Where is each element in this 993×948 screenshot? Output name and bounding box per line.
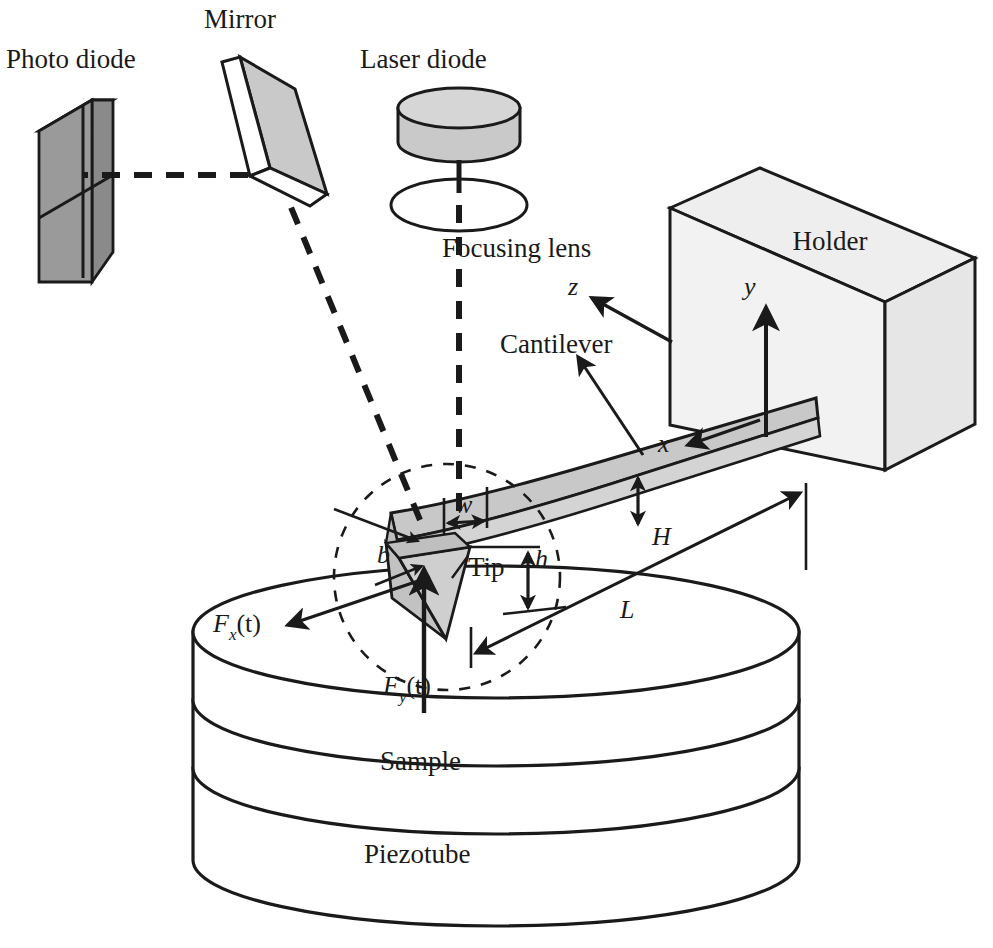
dimension-w-arrow xyxy=(448,521,484,523)
cantilever-leader-arrow xyxy=(578,357,643,455)
holder xyxy=(670,168,975,470)
holder-label: Holder xyxy=(793,226,868,256)
dimension-b-label: b xyxy=(377,540,390,569)
mirror-label: Mirror xyxy=(204,4,276,34)
dimension-h-label: h xyxy=(535,544,548,573)
dimension-w-label: w xyxy=(455,490,473,519)
piezotube-assembly xyxy=(193,566,799,926)
afm-schematic-figure: z y x w b h xyxy=(0,0,993,948)
dimension-L-label: L xyxy=(619,595,634,624)
axis-x-label: x xyxy=(657,429,670,458)
axis-z-label: z xyxy=(567,272,578,301)
force-fx-arg: (t) xyxy=(236,609,261,638)
photo-diode-label: Photo diode xyxy=(6,44,136,74)
cantilever-label: Cantilever xyxy=(500,329,612,359)
laser-diode-label: Laser diode xyxy=(360,44,487,74)
force-fy-base: F xyxy=(382,671,400,700)
sample-top-surface xyxy=(193,566,799,698)
force-fy-sub: y xyxy=(397,687,407,706)
force-fy-arg: (t) xyxy=(406,671,431,700)
laser-diode-top xyxy=(398,88,520,128)
sample-label: Sample xyxy=(380,746,461,776)
focusing-lens-label: Focusing lens xyxy=(442,233,591,263)
dimension-H-label: H xyxy=(651,522,672,551)
piezotube-label: Piezotube xyxy=(364,839,470,869)
laser-beam-reflected xyxy=(288,200,420,520)
diagram-canvas: z y x w b h xyxy=(0,0,993,948)
force-fx-base: F xyxy=(212,609,230,638)
laser-diode xyxy=(398,88,520,162)
mirror xyxy=(222,57,327,206)
photo-diode-side-face xyxy=(92,100,113,282)
tip-label: Tip xyxy=(468,552,505,582)
axis-y-label: y xyxy=(741,272,756,301)
photo-diode xyxy=(39,100,113,282)
